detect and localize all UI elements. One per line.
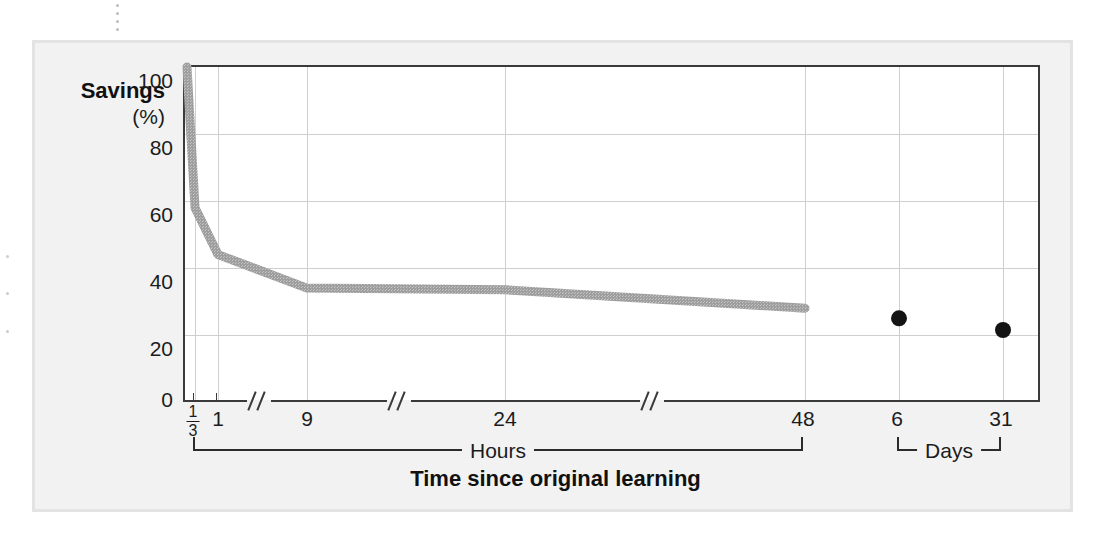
x-tick-label-1: 1: [212, 407, 224, 431]
y-tick-label-100: 100: [113, 69, 173, 93]
y-tick-label-40: 40: [113, 270, 173, 294]
y-tick-label-0: 0: [113, 388, 173, 412]
x-tick-label-24: 24: [493, 407, 516, 431]
axis-break-icon-3: [640, 391, 662, 411]
data-point-6-days: [891, 310, 907, 326]
axis-break-icon-2: [387, 391, 409, 411]
y-tick-label-60: 60: [113, 203, 173, 227]
y-tick-label-80: 80: [113, 136, 173, 160]
registration-dots-top: [116, 0, 119, 38]
group-bracket-hours: Hours: [193, 437, 803, 451]
x-axis-title: Time since original learning: [35, 466, 1076, 492]
x-tick-label-6: 6: [891, 407, 903, 431]
x-axis-line: [183, 400, 1040, 402]
data-point-31-days: [995, 322, 1011, 338]
registration-dots-left: [6, 0, 9, 548]
x-tick-one-third: [193, 393, 194, 400]
y-axis-unit: (%): [45, 105, 165, 129]
chart-canvas: [185, 67, 1042, 402]
fraction-numerator: 1: [187, 404, 200, 420]
axis-break-icon-1: [247, 391, 269, 411]
y-tick-label-20: 20: [113, 337, 173, 361]
x-tick-label-31: 31: [989, 407, 1012, 431]
group-bracket-days: Days: [897, 437, 1001, 451]
x-tick-label-48: 48: [791, 407, 814, 431]
series-forgetting-curve: [187, 67, 805, 308]
x-tick-label-9: 9: [301, 407, 313, 431]
group-label-days: Days: [917, 439, 981, 463]
x-tick-1: [216, 393, 217, 400]
x-tick-label-one-third: 1 3: [187, 404, 200, 439]
figure-panel: Savings (%) 100 80 60 40 20 0: [32, 40, 1073, 512]
group-label-hours: Hours: [462, 439, 534, 463]
plot-area: [183, 65, 1040, 400]
